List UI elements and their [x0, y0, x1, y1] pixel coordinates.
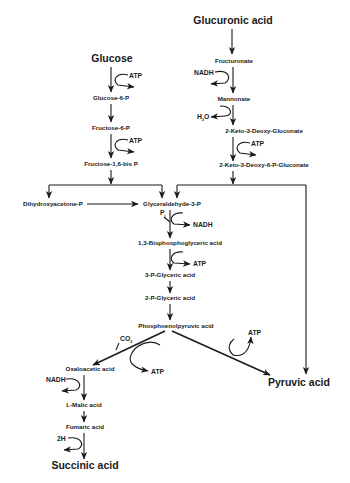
nadh-production-arrow [171, 213, 190, 225]
nadh-label-1: NADH [194, 69, 214, 76]
h2o-release-arrow [211, 106, 230, 117]
fructuronate-label: Fructuronate [215, 57, 254, 64]
atp-label-1: ATP [129, 72, 143, 79]
metabolic-pathway-diagram: Glucose ATP Glucose-6-P Fructose-6-P ATP… [0, 0, 350, 483]
g3p-label: Glyceraldehyde-3-P [143, 200, 201, 207]
fumaric-acid-label: Fumaric acid [66, 423, 104, 430]
pi-input-line [164, 217, 170, 222]
atp-production-arrow-3 [130, 355, 148, 371]
atp-label-2: ATP [129, 137, 143, 144]
2pg-label: 2-P-Glyceric acid [145, 294, 195, 301]
pyruvic-acid-label: Pyruvic acid [268, 376, 330, 388]
fructose-16-bisp-label: Fructose-1,6-bis P [84, 160, 138, 167]
nadh-label-3: NADH [46, 376, 66, 383]
nadh-consumption-arrow [211, 71, 229, 84]
glucose-6-p-label: Glucose-6-P [93, 94, 129, 101]
co2-input-line [116, 343, 119, 350]
dhap-label: Dihydroxyacetone-P [23, 200, 83, 207]
glucose-label: Glucose [91, 52, 133, 64]
bpg-label: 1,3-Bisphosphoglyceric acid [138, 239, 222, 246]
mannonate-label: Mannonate [218, 95, 251, 102]
glucuronic-acid-label: Glucuronic acid [193, 14, 272, 26]
atp-label-5: ATP [248, 329, 262, 336]
atp-label-6: ATP [151, 368, 165, 375]
3pg-label: 3-P-Glyceric acid [145, 271, 195, 278]
atp-label-3: ATP [251, 140, 265, 147]
atp-production-arrow-3-tail [131, 342, 160, 355]
atp-production-arrow-2-tail [229, 339, 234, 355]
l-malic-acid-label: L-Malic acid [66, 401, 102, 408]
co2-label: CO2 [120, 335, 132, 344]
nadh-label-2: NADH [193, 221, 213, 228]
succinic-acid-label: Succinic acid [51, 459, 118, 471]
h2o-label: H2O [197, 113, 209, 122]
2h-label: 2H [57, 435, 66, 442]
pi-label: Pi [160, 209, 166, 218]
fructose-6-p-label: Fructose-6-P [92, 124, 130, 131]
pep-label: Phosphoenolpyruvic acid [138, 322, 214, 329]
atp-label-4: ATP [193, 260, 207, 267]
kdpg-label: 2-Keto-3-Deoxy-6-P-Gluconate [219, 161, 309, 168]
2h-consumption-arrow [64, 438, 82, 450]
oxaloacetic-acid-label: Oxaloacetic acid [66, 365, 115, 372]
atp-production-arrow-1 [171, 252, 190, 264]
atp-production-arrow-2 [233, 337, 251, 356]
arrow-pep-to-pyruvate [172, 331, 270, 375]
kdg-label: 2-Keto-3-Deoxy-Gluconate [225, 127, 303, 134]
